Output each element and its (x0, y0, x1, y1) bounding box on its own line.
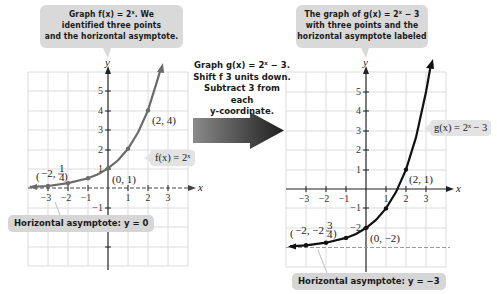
left-point-neg2-quarter: ( −2, 1 4 ) (36, 162, 68, 183)
svg-text:x: x (455, 182, 461, 194)
svg-text:1: 1 (384, 193, 389, 204)
svg-text:3: 3 (166, 192, 171, 203)
left-point-2-4: (2, 4) (152, 114, 176, 127)
svg-text:4: 4 (98, 105, 103, 116)
svg-text:−1: −1 (339, 193, 350, 204)
right-graph: −3−2−1 123 543 21−1 −2 y x (2, 1) (0, −2… (286, 56, 461, 273)
svg-text:y: y (362, 56, 368, 68)
svg-text:2: 2 (356, 144, 361, 155)
svg-text:2: 2 (404, 193, 409, 204)
svg-text:2: 2 (146, 192, 151, 203)
svg-text:5: 5 (356, 86, 361, 97)
left-function-label: f(x) = 2ˣ (150, 150, 195, 166)
right-curve-arrow-icon (426, 59, 434, 69)
svg-text:3: 3 (424, 193, 429, 204)
svg-text:1: 1 (126, 192, 131, 203)
transform-arrow-icon (193, 112, 284, 149)
right-callout: The graph of g(x) = 2ˣ − 3 with three po… (296, 5, 428, 48)
right-point-neg2-neg2-3-4: ( −2, −2 3 4 ) (290, 219, 337, 240)
right-point-0-neg2: (0, −2) (370, 232, 400, 245)
svg-text:−2: −2 (319, 193, 330, 204)
svg-text:−3: −3 (299, 193, 310, 204)
svg-text:2: 2 (98, 144, 103, 155)
svg-text:1: 1 (356, 164, 361, 175)
svg-text:−3: −3 (41, 192, 52, 203)
left-curve-arrow-left-icon (29, 184, 37, 190)
svg-text:−2, −2: −2, −2 (295, 224, 324, 236)
svg-text:−2: −2 (350, 222, 361, 233)
left-y-label: y (104, 56, 110, 68)
right-function-label: g(x) = 2ˣ − 3 (430, 120, 491, 136)
transform-description: Graph g(x) = 2ˣ − 3. Shift f 3 units dow… (192, 60, 292, 118)
left-curve-arrow-icon (157, 63, 164, 73)
svg-text:(: ( (36, 170, 40, 183)
svg-text:(: ( (290, 227, 294, 240)
svg-text:−1: −1 (92, 202, 103, 213)
svg-text:): ) (333, 227, 337, 240)
svg-text:−1: −1 (350, 202, 361, 213)
svg-text:−2: −2 (61, 192, 72, 203)
left-x-label: x (197, 181, 203, 193)
svg-text:1: 1 (98, 163, 103, 174)
right-point-2-1: (2, 1) (409, 173, 433, 186)
right-x-arrow-icon (446, 186, 454, 192)
right-curve-arrow-left-icon (288, 244, 296, 250)
left-callout: Graph f(x) = 2ˣ. We identified three poi… (40, 5, 183, 48)
left-asymptote-label: Horizontal asymptote: y = 0 (8, 215, 154, 232)
svg-text:5: 5 (98, 85, 103, 96)
svg-text:−1: −1 (81, 192, 92, 203)
svg-text:−2,: −2, (41, 167, 56, 179)
left-point-0-1: (0, 1) (112, 173, 136, 186)
svg-text:3: 3 (98, 124, 103, 135)
right-asymptote-label: Horizontal asymptote: y = −3 (292, 273, 446, 290)
svg-text:3: 3 (356, 125, 361, 136)
left-x-arrow-icon (188, 185, 196, 191)
svg-text:): ) (64, 170, 68, 183)
svg-text:4: 4 (356, 105, 361, 116)
